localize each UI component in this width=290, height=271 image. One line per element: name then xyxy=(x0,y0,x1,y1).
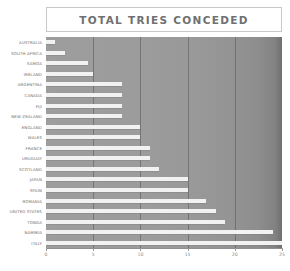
bar xyxy=(46,220,225,224)
page-title: TOTAL TRIES CONCEDED xyxy=(79,14,248,26)
bar xyxy=(46,209,216,213)
bar xyxy=(46,61,88,65)
bar-row xyxy=(46,185,282,196)
chart-root: TOTAL TRIES CONCEDED AUSTRALIASOUTH AFRI… xyxy=(0,0,290,271)
y-axis-tick-label: ITALY xyxy=(31,240,42,245)
chart-title-box: TOTAL TRIES CONCEDED xyxy=(46,7,282,32)
y-axis-tick-label: TONGA xyxy=(27,219,42,224)
x-axis-tick-label: 25 xyxy=(279,252,285,257)
y-axis-tick-label: FRANCE xyxy=(26,145,42,150)
bar xyxy=(46,72,93,76)
x-axis-tick xyxy=(188,248,189,251)
y-axis-tick-label: FIJI xyxy=(36,103,42,108)
bar-row xyxy=(46,164,282,175)
bar xyxy=(46,146,150,150)
bar xyxy=(46,51,65,55)
x-axis-tick-label: 20 xyxy=(232,252,238,257)
y-axis-tick-label: SCOTLAND xyxy=(19,166,42,171)
bar-row xyxy=(46,227,282,238)
y-axis-tick-label: UNITED STATES xyxy=(10,209,42,214)
x-axis-tick xyxy=(93,248,94,251)
bar-row xyxy=(46,58,282,69)
bar xyxy=(46,230,273,234)
bar-row xyxy=(46,79,282,90)
bar-row xyxy=(46,48,282,59)
x-axis-tick-label: 5 xyxy=(92,252,95,257)
x-axis-tick-label: 0 xyxy=(45,252,48,257)
y-axis-tick-label: ENGLAND xyxy=(22,124,42,129)
bar xyxy=(46,82,122,86)
y-axis-tick-label: SOUTH AFRICA xyxy=(11,50,42,55)
y-axis-tick-label: URUGUAY xyxy=(22,156,42,161)
x-axis-tick-label: 10 xyxy=(137,252,143,257)
bar-row xyxy=(46,174,282,185)
bar xyxy=(46,199,206,203)
bar-row xyxy=(46,216,282,227)
bar-row xyxy=(46,100,282,111)
y-axis-tick-label: ARGENTINA xyxy=(18,82,42,87)
y-axis-tick-label: NAMIBIA xyxy=(24,230,42,235)
x-axis-tick-label: 15 xyxy=(185,252,191,257)
plot-area xyxy=(46,37,282,248)
y-axis-tick-label: JAPAN xyxy=(30,177,42,182)
bar-row xyxy=(46,121,282,132)
y-axis-tick-label: NEW ZEALAND xyxy=(11,114,42,119)
bar xyxy=(46,114,122,118)
bar xyxy=(46,104,122,108)
bar xyxy=(46,167,159,171)
bar xyxy=(46,40,55,44)
bar-row xyxy=(46,132,282,143)
bar xyxy=(46,156,150,160)
bar xyxy=(46,125,140,129)
x-axis-tick xyxy=(140,248,141,251)
y-axis-labels: AUSTRALIASOUTH AFRICASAMOAIRELANDARGENTI… xyxy=(0,37,44,248)
bar-series xyxy=(46,37,282,248)
bar xyxy=(46,177,188,181)
bar-row xyxy=(46,37,282,48)
bar-row xyxy=(46,111,282,122)
y-axis-tick-label: SPAIN xyxy=(30,187,42,192)
y-axis-tick-label: ROMANIA xyxy=(22,198,42,203)
bar-row xyxy=(46,153,282,164)
bar xyxy=(46,241,282,245)
x-axis-tick xyxy=(235,248,236,251)
bar-row xyxy=(46,206,282,217)
y-axis-tick-label: WALES xyxy=(28,135,42,140)
bar xyxy=(46,135,140,139)
y-axis-tick-label: AUSTRALIA xyxy=(19,40,42,45)
bar-row xyxy=(46,237,282,248)
y-axis-tick-label: CANADA xyxy=(25,93,42,98)
x-axis-tick xyxy=(46,248,47,251)
y-axis-tick-label: SAMOA xyxy=(27,61,42,66)
bar-row xyxy=(46,90,282,101)
bar xyxy=(46,93,122,97)
x-axis-line xyxy=(46,248,282,249)
bar-row xyxy=(46,195,282,206)
x-axis-tick xyxy=(282,248,283,251)
bar-row xyxy=(46,143,282,154)
bar-row xyxy=(46,69,282,80)
y-axis-tick-label: IRELAND xyxy=(24,71,42,76)
bar xyxy=(46,188,188,192)
